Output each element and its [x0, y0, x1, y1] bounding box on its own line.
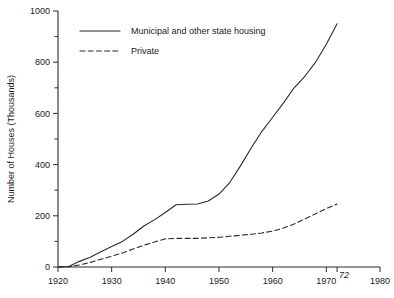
y-tick-labels: 02004006008001000 [30, 6, 50, 272]
y-axis-group: 02004006008001000 Number of Houses (Thou… [6, 6, 58, 272]
x-axis-group: 192019301940195019601970198072 [48, 267, 390, 286]
legend-label-0: Municipal and other state housing [131, 26, 266, 36]
x-tick-label-1980: 1980 [370, 276, 390, 286]
x-tick-marks [58, 267, 380, 272]
series-line-1 [58, 204, 337, 267]
y-tick-label-200: 200 [35, 211, 50, 221]
y-tick-label-800: 800 [35, 57, 50, 67]
chart-canvas: 02004006008001000 Number of Houses (Thou… [0, 0, 394, 298]
x-tick-label-1920: 1920 [48, 276, 68, 286]
y-tick-label-0: 0 [45, 262, 50, 272]
x-tick-label-1950: 1950 [209, 276, 229, 286]
y-tick-label-400: 400 [35, 160, 50, 170]
x-tick-label-1972: 72 [339, 270, 349, 280]
y-tick-label-600: 600 [35, 109, 50, 119]
chart-legend: Municipal and other state housingPrivate [80, 26, 266, 56]
series-lines [58, 24, 337, 267]
legend-label-1: Private [131, 46, 159, 56]
x-tick-label-1970: 1970 [316, 276, 336, 286]
y-tick-marks [53, 11, 58, 267]
series-line-0 [58, 24, 337, 267]
x-tick-label-1940: 1940 [155, 276, 175, 286]
y-tick-label-1000: 1000 [30, 6, 50, 16]
line-chart: 02004006008001000 Number of Houses (Thou… [0, 0, 394, 298]
x-tick-label-1930: 1930 [102, 276, 122, 286]
x-tick-label-1960: 1960 [263, 276, 283, 286]
x-tick-labels: 192019301940195019601970198072 [48, 270, 390, 286]
y-axis-title: Number of Houses (Thousands) [6, 75, 16, 203]
